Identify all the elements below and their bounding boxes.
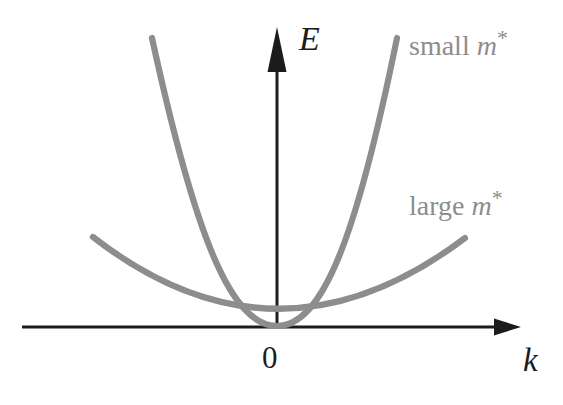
annotation-large-symbol: m [471,190,491,221]
annotation-large-effective-mass: large m* [409,188,503,220]
annotation-small-effective-mass: small m* [409,28,508,60]
band-structure-figure: E k 0 small m* large m* [0,0,563,405]
annotation-small-symbol: m [477,30,497,61]
annotation-small-superscript: * [497,26,508,50]
e-axis-arrowhead [268,27,287,72]
origin-label: 0 [262,342,278,373]
annotation-large-prefix: large [409,190,471,221]
k-axis-arrowhead [494,319,521,336]
curve-small-effective-mass [152,38,397,326]
annotation-small-prefix: small [409,30,477,61]
energy-axis-label: E [299,22,320,56]
wavevector-axis-label: k [523,344,538,377]
annotation-large-superscript: * [492,186,503,210]
curve-large-effective-mass [93,237,465,309]
